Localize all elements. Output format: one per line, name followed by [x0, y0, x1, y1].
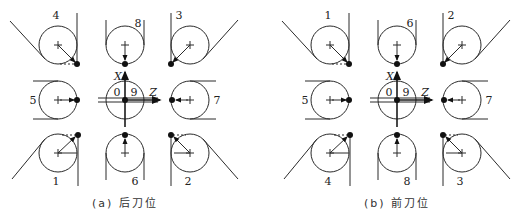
- diagram-canvas: 483509XZ7162(a) 后刀位162509XZ7483(b) 前刀位: [0, 0, 528, 217]
- tool-label-center-0: 0: [114, 86, 121, 99]
- tool-label-top-right: 2: [448, 9, 455, 22]
- tool-label-center-9: 9: [131, 86, 138, 99]
- tool-label-middle-left: 5: [30, 94, 37, 107]
- tool-label-bottom-right: 2: [185, 175, 192, 188]
- tool-label-top-left: 1: [325, 9, 332, 22]
- tool-label-bottom-middle: 6: [132, 175, 139, 188]
- tool-label-bottom-left: 1: [53, 175, 60, 188]
- tool-label-center-0: 0: [386, 86, 393, 99]
- x-axis-label: X: [385, 70, 395, 83]
- tool-label-middle-left: 5: [302, 94, 309, 107]
- tool-position-diagram: 483509XZ7162(a) 后刀位162509XZ7483(b) 前刀位: [0, 0, 528, 217]
- tool-label-top-middle: 6: [407, 17, 414, 30]
- tool-label-bottom-left: 4: [325, 175, 332, 188]
- tool-label-bottom-right: 3: [457, 175, 464, 188]
- tool-label-bottom-middle: 8: [404, 175, 411, 188]
- tool-label-middle-right: 7: [486, 94, 493, 107]
- panel-caption: (b) 前刀位: [364, 196, 430, 210]
- x-axis-label: X: [113, 70, 123, 83]
- z-axis-label: Z: [148, 86, 157, 99]
- panel-b: 162509XZ7483(b) 前刀位: [282, 9, 510, 210]
- panel-a: 483509XZ7162(a) 后刀位: [10, 9, 238, 210]
- z-axis-label: Z: [420, 86, 429, 99]
- tool-label-top-middle: 8: [135, 17, 142, 30]
- panel-caption: (a) 后刀位: [92, 196, 158, 210]
- tool-label-top-left: 4: [53, 9, 60, 22]
- tool-label-middle-right: 7: [214, 94, 221, 107]
- tool-label-top-right: 3: [176, 9, 183, 22]
- tool-label-center-9: 9: [403, 86, 410, 99]
